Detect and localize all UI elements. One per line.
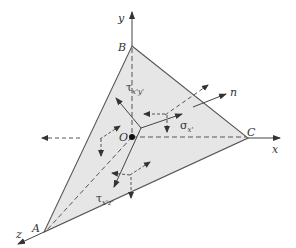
vertex-b-label: B <box>117 41 126 54</box>
normal-label: n <box>230 86 237 99</box>
vertex-a-label: A <box>31 222 40 235</box>
diagram-svg: y x z B C A O n τx'y' σx' τx'z' <box>0 0 296 248</box>
x-axis-label: x <box>272 143 279 156</box>
origin-label: O <box>119 131 128 144</box>
oblique-face-abc <box>44 46 248 232</box>
y-axis-label: y <box>117 12 125 25</box>
vertex-c-label: C <box>247 126 256 139</box>
z-axis <box>18 232 44 244</box>
stress-tetrahedron-diagram: y x z B C A O n τx'y' σx' τx'z' <box>0 0 296 248</box>
origin-point <box>129 134 135 140</box>
z-axis-label: z <box>15 228 22 241</box>
